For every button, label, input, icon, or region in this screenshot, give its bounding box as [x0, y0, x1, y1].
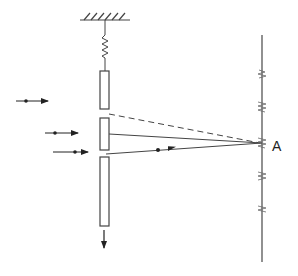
spring-icon [102, 20, 108, 71]
top-plate [100, 71, 109, 109]
incoming-particle-3 [53, 150, 88, 154]
diagram-canvas: A [0, 0, 298, 276]
ceiling-support-icon [80, 13, 130, 20]
point-A-label: A [272, 138, 282, 154]
bottom-plate [100, 157, 109, 226]
incoming-particle-2 [45, 131, 78, 135]
incoming-particle-1 [16, 99, 48, 103]
middle-plate [100, 118, 109, 150]
lower-slit-path [106, 143, 262, 154]
